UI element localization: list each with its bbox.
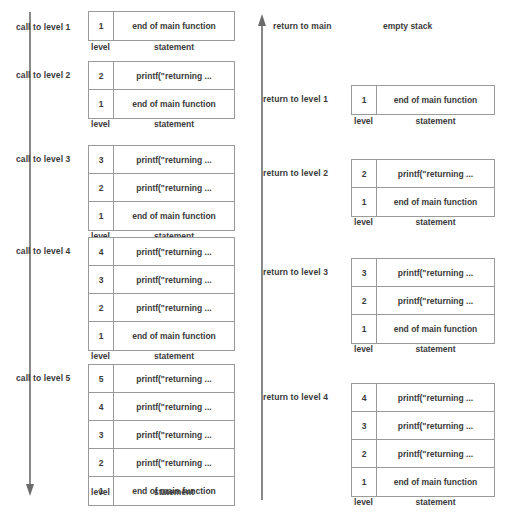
- frame-level: 2: [89, 294, 114, 321]
- stack-frame: 2 printf("returning ...: [352, 440, 494, 468]
- frame-statement: end of main function: [114, 12, 234, 40]
- stack-captions: level statement: [88, 487, 235, 497]
- frame-statement: printf("returning ...: [114, 294, 234, 321]
- frame-level: 3: [89, 266, 114, 293]
- phase-label: return to main: [273, 21, 332, 32]
- frame-statement: printf("returning ...: [377, 160, 494, 187]
- frame-level: 1: [89, 202, 114, 230]
- caption-statement: statement: [113, 487, 235, 497]
- frame-level: 4: [89, 393, 114, 420]
- stack-captions: level statement: [351, 116, 495, 126]
- stack-frames: 1 end of main function: [88, 11, 235, 41]
- stack-frame: 1 end of main function: [89, 322, 234, 350]
- frame-statement: printf("returning ...: [114, 146, 234, 173]
- stack-frame: 1 end of main function: [352, 86, 494, 114]
- caption-level: level: [351, 116, 376, 126]
- caption-statement: statement: [113, 42, 235, 52]
- caption-statement: statement: [376, 217, 495, 227]
- caption-statement: statement: [113, 351, 235, 361]
- frame-level: 2: [352, 287, 377, 314]
- phase-label: call to level 1: [16, 22, 70, 33]
- frame-level: 2: [352, 440, 377, 467]
- frame-level: 1: [352, 315, 377, 343]
- stack-captions: level statement: [351, 497, 495, 507]
- frame-level: 1: [352, 188, 377, 216]
- frame-level: 3: [352, 259, 377, 286]
- stack-frame: 1 end of main function: [352, 188, 494, 216]
- stack-frame: 5 printf("returning ...: [89, 365, 234, 393]
- stack-frames: 4 printf("returning ... 3 printf("return…: [88, 237, 235, 351]
- stack-frame: 4 printf("returning ...: [89, 238, 234, 266]
- stack-frame: 1 end of main function: [89, 90, 234, 118]
- frame-statement: printf("returning ...: [114, 238, 234, 265]
- frame-level: 2: [89, 449, 114, 476]
- caption-statement: statement: [376, 497, 495, 507]
- frame-statement: printf("returning ...: [114, 365, 234, 392]
- phase-label: return to level 3: [263, 267, 328, 278]
- stack-captions: level statement: [351, 344, 495, 354]
- frame-statement: printf("returning ...: [114, 266, 234, 293]
- caption-statement: statement: [376, 116, 495, 126]
- stack-frame: 3 printf("returning ...: [352, 259, 494, 287]
- stack-frame: 3 printf("returning ...: [89, 421, 234, 449]
- phase-label: call to level 3: [16, 154, 70, 165]
- caption-level: level: [88, 351, 113, 361]
- frame-statement: printf("returning ...: [377, 259, 494, 286]
- stack-frames: 3 printf("returning ... 2 printf("return…: [351, 258, 495, 344]
- frame-level: 1: [352, 468, 377, 496]
- return-sequence-column: return to main empty stack return to lev…: [255, 0, 507, 512]
- frame-statement: end of main function: [377, 468, 494, 496]
- phase-label: call to level 5: [16, 373, 70, 384]
- stack-frame: 2 printf("returning ...: [352, 287, 494, 315]
- frame-statement: printf("returning ...: [114, 62, 234, 89]
- stack-frame: 1 end of main function: [352, 468, 494, 496]
- phase-label: return to level 4: [263, 392, 328, 403]
- frame-level: 4: [89, 238, 114, 265]
- stack-frame: 2 printf("returning ...: [89, 62, 234, 90]
- stack-frame: 1 end of main function: [89, 202, 234, 230]
- caption-level: level: [88, 119, 113, 129]
- frame-statement: printf("returning ...: [377, 384, 494, 411]
- stack-captions: level statement: [88, 119, 235, 129]
- stack-frame: 3 printf("returning ...: [89, 266, 234, 294]
- frame-level: 3: [89, 421, 114, 448]
- caption-level: level: [88, 42, 113, 52]
- caption-level: level: [88, 487, 113, 497]
- call-sequence-column: call to level 1 1 end of main function l…: [0, 0, 255, 512]
- stack-frame: 1 end of main function: [352, 315, 494, 343]
- stack-frame: 2 printf("returning ...: [89, 174, 234, 202]
- caption-level: level: [351, 497, 376, 507]
- empty-stack-note: empty stack: [383, 21, 432, 31]
- frame-level: 1: [89, 90, 114, 118]
- phase-label: return to level 1: [263, 94, 328, 105]
- frame-statement: printf("returning ...: [114, 393, 234, 420]
- stack-frames: 1 end of main function: [351, 85, 495, 115]
- stack-captions: level statement: [88, 42, 235, 52]
- frame-level: 4: [352, 384, 377, 411]
- frame-statement: end of main function: [114, 90, 234, 118]
- stack-frames: 3 printf("returning ... 2 printf("return…: [88, 145, 235, 231]
- frame-level: 1: [89, 322, 114, 350]
- frame-statement: end of main function: [377, 86, 494, 114]
- stack-frame: 2 printf("returning ...: [352, 160, 494, 188]
- frame-statement: end of main function: [114, 322, 234, 350]
- frame-statement: printf("returning ...: [377, 412, 494, 439]
- stack-frames: 2 printf("returning ... 1 end of main fu…: [351, 159, 495, 217]
- phase-label: return to level 2: [263, 168, 328, 179]
- frame-level: 1: [89, 12, 114, 40]
- frame-statement: end of main function: [114, 202, 234, 230]
- stack-captions: level statement: [88, 351, 235, 361]
- stack-frame: 2 printf("returning ...: [89, 294, 234, 322]
- stack-frame: 3 printf("returning ...: [352, 412, 494, 440]
- stack-captions: level statement: [351, 217, 495, 227]
- frame-level: 2: [89, 174, 114, 201]
- stack-frames: 4 printf("returning ... 3 printf("return…: [351, 383, 495, 497]
- frame-level: 3: [352, 412, 377, 439]
- frame-statement: end of main function: [377, 188, 494, 216]
- phase-label: call to level 4: [16, 246, 70, 257]
- frame-statement: printf("returning ...: [377, 440, 494, 467]
- frame-level: 3: [89, 146, 114, 173]
- frame-statement: printf("returning ...: [114, 174, 234, 201]
- caption-statement: statement: [113, 119, 235, 129]
- frame-level: 2: [89, 62, 114, 89]
